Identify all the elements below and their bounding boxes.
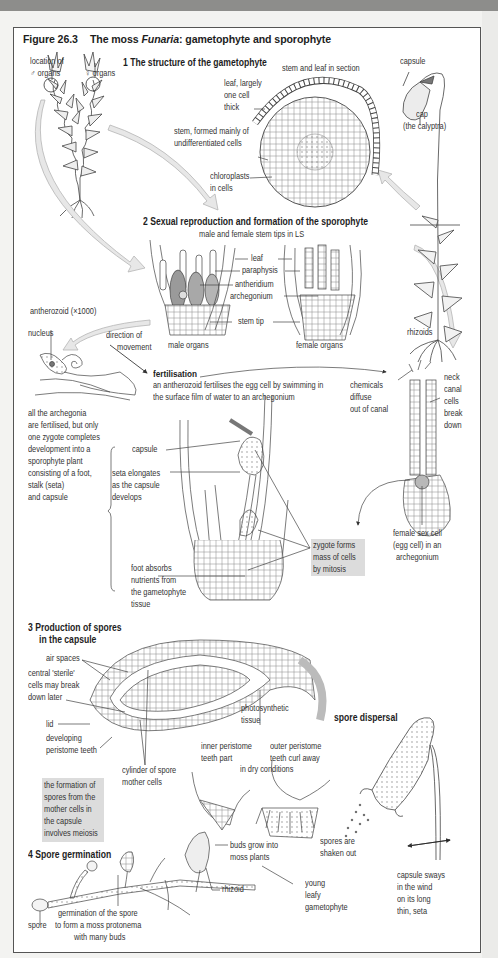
section2-heading: 2 Sexual reproduction and formation of t… (143, 216, 368, 228)
label-paraphysis: paraphysis (242, 265, 278, 277)
label-neck-4: break (444, 408, 462, 420)
label-antheridium: antheridium (235, 279, 274, 291)
label-lid: lid (46, 719, 53, 731)
label-young-1: young (305, 878, 325, 890)
label-sterile-2: cells may break (28, 680, 79, 692)
label-chemicals-2: diffuse (350, 392, 372, 404)
label-egg-3: archegonium (396, 552, 439, 564)
label-stem-leaf-section: stem and leaf in section (282, 63, 360, 75)
label-fertilisation-2: the surface film of water to an archegon… (153, 392, 295, 404)
meiosis-note-4: the capsule (44, 816, 82, 828)
label-direction-1: direction of (106, 330, 142, 342)
label-nucleus: nucleus (28, 328, 53, 340)
meiosis-note-3: mother cells in (44, 804, 92, 816)
label-neck-1: neck (444, 372, 460, 384)
label-cylinder-1: cylinder of spore (122, 765, 176, 777)
label-photosynthetic-2: tissue (241, 715, 260, 727)
section1-heading: 1 The structure of the gametophyte (123, 57, 267, 69)
label-photosynthetic-1: photosynthetic (241, 703, 289, 715)
label-cap-1: cap (416, 109, 428, 121)
label-leaf-1: leaf, largely (224, 78, 262, 90)
female-organs (284, 245, 361, 340)
label-leaf-3: thick (224, 102, 239, 114)
label-male-organs: male organs (168, 340, 209, 352)
label-sterile-1: central 'sterile' (28, 668, 75, 680)
young-sporophyte (180, 395, 288, 600)
label-antherozoid: antherozoid (×1000) (30, 306, 96, 318)
label-neck-2: canal (444, 384, 462, 396)
section3-heading-1: 3 Production of spores (28, 622, 122, 634)
archegonia-note-1: all the archegonia (28, 408, 86, 420)
spore-dispersal-heading: spore dispersal (334, 712, 398, 724)
section2-subheading: male and female stem tips in LS (199, 229, 304, 241)
label-young-3: gametophyte (305, 902, 348, 914)
label-cap-2: (the calyptra) (403, 121, 446, 133)
label-zygote-2: mass of cells (313, 552, 356, 564)
label-inner-peristome-2: teeth part (201, 753, 232, 765)
label-inner-peristome-1: inner peristome (201, 741, 252, 753)
label-zygote-1: zygote forms (313, 540, 355, 552)
label-stem-1: stem, formed mainly of (174, 126, 249, 138)
label-direction-2: movement (117, 342, 152, 354)
label-archegonium: archegonium (230, 291, 273, 303)
stem-cross-section (255, 80, 377, 207)
label-male-location-2: ♂ organs (30, 68, 60, 80)
label-dry-conditions: in dry conditions (240, 764, 293, 776)
label-seta-1: seta elongates (112, 468, 160, 480)
meiosis-note-1: the formation of (44, 780, 95, 792)
label-male-location-1: location of (30, 56, 64, 68)
label-neck-5: down (444, 420, 462, 432)
antherozoid (35, 353, 136, 400)
label-buds-1: buds grow into (230, 840, 278, 852)
label-sway-2: in the wind (397, 882, 432, 894)
label-egg-2: (egg cell) in an (393, 540, 441, 552)
label-female-organs: ♀ organs (85, 68, 115, 80)
label-spore: spore (28, 920, 46, 932)
label-buds-2: moss plants (230, 852, 269, 864)
label-germination-3: with many buds (74, 932, 125, 944)
label-cylinder-2: mother cells (122, 777, 162, 789)
fertilisation-heading: fertilisation (153, 368, 197, 380)
label-foot-4: tissue (131, 599, 150, 611)
archegonia-note-5: sporophyte plant (28, 456, 83, 468)
label-sway-3: on its long (397, 894, 431, 906)
archegonia-note-8: and capsule (28, 492, 68, 504)
male-organs (150, 240, 235, 335)
label-foot-3: the gametophyte (131, 587, 186, 599)
label-sway-1: capsule sways (397, 870, 445, 882)
label-sway-4: thin, seta (397, 906, 427, 918)
label-chemicals-1: chemicals (350, 380, 383, 392)
protonema (32, 832, 255, 915)
archegonia-note-4: development into a (28, 444, 90, 456)
label-fertilisation-1: an antherozoid fertilises the egg cell b… (153, 380, 323, 392)
dispersing-capsule (345, 718, 440, 860)
label-seta-3: develops (112, 492, 142, 504)
archegonia-note-7: stalk (seta) (28, 480, 64, 492)
meiosis-note-5: involves meiosis (44, 828, 98, 840)
label-shaken-2: shaken out (320, 848, 356, 860)
label-foot-1: foot absorbs (131, 563, 172, 575)
label-peristome-2: peristome teeth (46, 745, 97, 757)
label-chemicals-3: out of canal (350, 404, 388, 416)
label-capsule-2: capsule (132, 444, 157, 456)
meiosis-note-2: spores from the (44, 792, 95, 804)
label-germination-1: germination of the spore (58, 908, 138, 920)
label-rhizoids: rhizoids (407, 327, 432, 339)
label-female-organs-2: female organs (296, 340, 343, 352)
label-egg-1: female sex cell (393, 528, 442, 540)
label-peristome-1: developing (46, 733, 82, 745)
label-air-spaces: air spaces (46, 653, 80, 665)
label-rhizoid: rhizoid (222, 884, 244, 896)
label-young-2: leafy (305, 890, 321, 902)
label-shaken-1: spores are (320, 836, 355, 848)
archegonia-note-6: consisting of a foot, (28, 468, 92, 480)
section4-heading: 4 Spore germination (28, 849, 111, 861)
label-leaf-2: one cell (224, 90, 249, 102)
section3-heading-2: in the capsule (39, 634, 96, 646)
label-capsule: capsule (400, 56, 425, 68)
capsule-plant (403, 72, 462, 362)
label-neck-3: cells (444, 396, 459, 408)
archegonia-note-3: one zygote completes (28, 432, 100, 444)
label-chloroplasts-2: in cells (210, 183, 233, 195)
label-chloroplasts-1: chloroplasts (210, 171, 249, 183)
